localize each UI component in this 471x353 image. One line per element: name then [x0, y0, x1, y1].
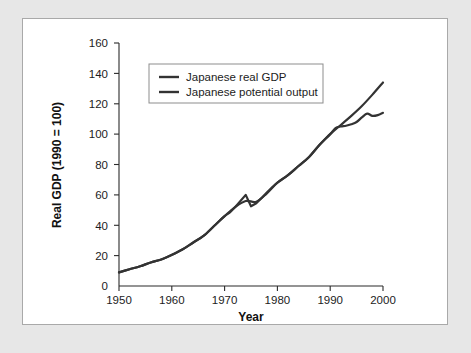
- y-tick-label-40: 40: [95, 220, 108, 232]
- y-tick-label-160: 160: [89, 37, 108, 49]
- x-tick-label-1950: 1950: [106, 294, 132, 306]
- chart-panel: 160 140 120 100 80 60 40 20 0 1950 1960 …: [22, 18, 448, 325]
- y-tick-label-80: 80: [95, 159, 108, 171]
- y-tick-label-100: 100: [89, 128, 108, 140]
- figure-frame: 160 140 120 100 80 60 40 20 0 1950 1960 …: [0, 0, 471, 353]
- y-axis-title: Real GDP (1990 = 100): [50, 102, 64, 228]
- y-tick-label-60: 60: [95, 189, 108, 201]
- x-tick-label-1980: 1980: [265, 294, 291, 306]
- series-line-japanese-potential-output: [119, 82, 383, 272]
- legend-label-real-gdp: Japanese real GDP: [186, 71, 287, 83]
- x-tick-label-2000: 2000: [370, 294, 396, 306]
- x-tick-label-1970: 1970: [212, 294, 238, 306]
- x-tick-label-1990: 1990: [317, 294, 343, 306]
- legend-label-potential-output: Japanese potential output: [186, 86, 319, 98]
- y-tick-label-0: 0: [102, 280, 108, 292]
- y-tick-label-120: 120: [89, 98, 108, 110]
- y-tick-label-140: 140: [89, 68, 108, 80]
- gdp-line-chart: 160 140 120 100 80 60 40 20 0 1950 1960 …: [23, 19, 447, 324]
- x-tick-label-1960: 1960: [159, 294, 185, 306]
- y-tick-label-20: 20: [95, 250, 108, 262]
- series-line-japanese-real-gdp: [119, 113, 383, 272]
- chart-legend: Japanese real GDP Japanese potential out…: [149, 64, 323, 103]
- x-axis-title: Year: [238, 310, 264, 324]
